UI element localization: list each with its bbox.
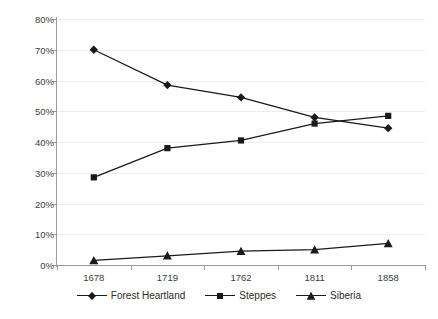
series-markers (89, 46, 392, 265)
series-lines (94, 50, 388, 261)
data-point-marker (237, 93, 245, 101)
data-point-marker (238, 137, 244, 143)
data-point-marker (163, 81, 171, 89)
data-point-marker (385, 113, 391, 119)
chart-legend: Forest HeartlandSteppesSiberia (0, 290, 438, 301)
data-point-marker (90, 46, 98, 54)
legend-triangle-icon (296, 291, 326, 301)
data-point-marker (164, 145, 170, 151)
legend-label: Steppes (239, 290, 276, 301)
legend-item[interactable]: Siberia (296, 290, 361, 301)
data-point-marker (310, 113, 318, 121)
series-layer (0, 0, 438, 319)
legend-label: Siberia (330, 290, 361, 301)
series-line (94, 50, 388, 128)
data-point-marker (91, 174, 97, 180)
legend-item[interactable]: Steppes (205, 290, 276, 301)
data-point-marker (312, 120, 318, 126)
line-chart: 0%10%20%30%40%50%60%70%80% 1678171917621… (0, 0, 438, 319)
data-point-marker (384, 124, 392, 132)
legend-square-icon (205, 291, 235, 301)
series-line (94, 116, 388, 178)
legend-label: Forest Heartland (111, 290, 185, 301)
legend-item[interactable]: Forest Heartland (77, 290, 185, 301)
legend-diamond-icon (77, 291, 107, 301)
